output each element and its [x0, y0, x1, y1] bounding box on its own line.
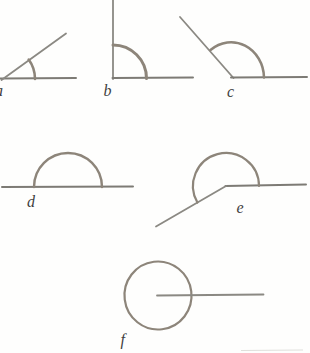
figure-c-slanted-ray	[180, 17, 234, 78]
figure-d: d	[2, 153, 133, 210]
figure-a-angle-arc	[29, 60, 35, 79]
figure-f: f	[121, 258, 264, 349]
angles-diagram-svg: a b c d e	[0, 0, 310, 353]
figure-d-line	[2, 187, 133, 188]
figure-f-radius-ray	[157, 295, 264, 296]
figure-e-slanted-ray	[156, 186, 226, 227]
scan-smudge	[241, 350, 303, 351]
figure-f-label: f	[121, 331, 128, 349]
figure-b-horizontal-ray	[113, 78, 194, 79]
figure-e-angle-arc	[193, 153, 259, 202]
figure-c-label: c	[227, 83, 234, 100]
figure-b: b	[104, 0, 194, 99]
figure-c: c	[180, 17, 307, 100]
figure-a: a	[0, 34, 76, 100]
figure-b-label: b	[104, 82, 112, 99]
figure-b-angle-arc	[113, 45, 147, 79]
figure-c-horizontal-ray	[231, 77, 307, 78]
figure-a-horizontal-ray	[0, 78, 76, 79]
figure-e-label: e	[237, 199, 244, 216]
figure-e: e	[156, 153, 306, 226]
figure-d-label: d	[27, 193, 36, 210]
figure-a-label: a	[0, 82, 3, 99]
angles-diagram: a b c d e	[0, 0, 310, 353]
figure-e-horizontal-ray	[226, 185, 307, 187]
figure-d-angle-arc	[34, 153, 102, 187]
